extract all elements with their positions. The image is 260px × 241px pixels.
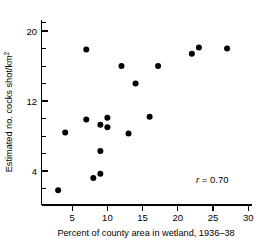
y-tick-label-20: 20	[26, 26, 37, 37]
plot-canvas: 20 12 4 5 10 15 20 25 30 Percent of coun…	[0, 0, 260, 241]
x-axis-title: Percent of county area in wetland, 1936–…	[57, 228, 234, 238]
x-tick-label-5: 5	[70, 212, 75, 223]
data-point	[97, 148, 103, 154]
y-axis-title: Estimated no. cocks shot/km2	[3, 51, 14, 172]
data-point	[224, 46, 230, 52]
data-point	[90, 175, 96, 181]
data-point	[189, 51, 195, 57]
data-point	[196, 45, 202, 51]
data-point	[118, 63, 124, 69]
data-point	[55, 187, 61, 193]
data-point	[97, 122, 103, 128]
x-tick-label-20: 20	[173, 212, 184, 223]
correlation-value: 0.70	[210, 174, 229, 185]
x-tick-label-25: 25	[208, 212, 219, 223]
data-point	[83, 46, 89, 52]
correlation-annotation: r = 0.70	[196, 174, 229, 185]
data-point	[97, 171, 103, 177]
x-tick-label-15: 15	[137, 212, 148, 223]
data-point	[133, 81, 139, 87]
x-tick-label-10: 10	[102, 212, 113, 223]
y-axis-title-main: Estimated no. cocks shot/km	[4, 55, 14, 172]
x-tick-label-30: 30	[243, 212, 254, 223]
x-axis-ticks	[72, 205, 248, 211]
y-tick-label-4: 4	[32, 166, 37, 177]
data-point	[155, 63, 161, 69]
y-axis-title-exponent: 2	[3, 51, 10, 55]
y-axis-major-ticks	[42, 31, 49, 171]
data-point	[104, 124, 110, 130]
data-point	[104, 115, 110, 121]
scatter-plot-figure: 20 12 4 5 10 15 20 25 30 Percent of coun…	[0, 0, 260, 241]
y-axis-minor-ticks	[42, 23, 47, 189]
data-points-group	[55, 45, 230, 194]
y-tick-label-12: 12	[26, 96, 37, 107]
data-point	[126, 130, 132, 136]
data-point	[147, 114, 153, 120]
data-point	[83, 116, 89, 122]
data-point	[62, 130, 68, 136]
